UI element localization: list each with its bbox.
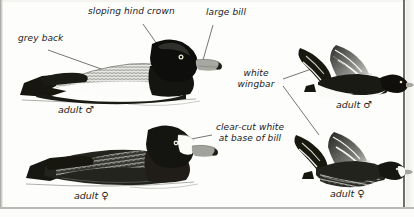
caption-swimming-male: adult ♂ — [58, 104, 94, 115]
figure-flying-female — [294, 132, 413, 187]
annotation-sloping-hind-crown: sloping hind crown — [88, 6, 175, 17]
figure-flying-male — [298, 45, 414, 100]
leader-white-wingbar-female — [283, 86, 319, 135]
annotation-grey-back: grey back — [18, 33, 63, 44]
sex-symbol-female: ♀ — [101, 190, 108, 201]
annotation-white-wingbar: white wingbar — [228, 68, 284, 89]
caption-text: adult — [58, 104, 82, 115]
leader-sloping-hind-crown — [143, 24, 157, 44]
field-guide-plate: grey back sloping hind crown large bill … — [0, 0, 414, 217]
caption-text: adult — [74, 190, 98, 201]
caption-text: adult — [330, 188, 354, 199]
figure-swimming-female — [26, 125, 218, 188]
figure-swimming-male — [20, 39, 222, 105]
sex-symbol-female: ♀ — [357, 188, 364, 199]
annotation-clear-cut-white: clear-cut white at base of bill — [214, 122, 286, 143]
caption-flying-male: adult ♂ — [336, 99, 372, 110]
sex-symbol-male: ♂ — [85, 104, 94, 115]
sex-symbol-male: ♂ — [363, 99, 372, 110]
annotation-large-bill: large bill — [206, 7, 246, 18]
leader-large-bill — [203, 25, 213, 60]
leader-grey-back — [48, 50, 104, 70]
caption-flying-female: adult ♀ — [330, 188, 365, 199]
caption-text: adult — [336, 99, 360, 110]
caption-swimming-female: adult ♀ — [74, 190, 109, 201]
